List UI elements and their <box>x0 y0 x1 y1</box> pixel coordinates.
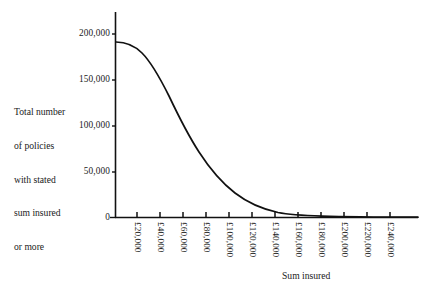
y-axis-ticks <box>110 34 116 218</box>
y-tick-label-100000: 100,000 <box>46 120 110 130</box>
x-tick-label-11: £220,000 <box>363 222 373 257</box>
y-axis-title: Total number of policies with stated sum… <box>14 84 88 274</box>
x-tick-6: £120,000 <box>248 222 259 278</box>
x-tick-10: £200,000 <box>340 222 351 278</box>
y-tick-label-0: 0 <box>46 212 110 222</box>
x-tick-label-3: £60,000 <box>179 222 189 253</box>
y-tick-label-200000: 200,000 <box>46 28 110 38</box>
y-tick-50000: 50,000 <box>46 166 110 177</box>
x-tick-3: £60,000 <box>179 222 190 278</box>
x-tick-label-9: £180,000 <box>317 222 327 257</box>
y-tick-100000: 100,000 <box>46 120 110 131</box>
x-tick-label-1: £20,000 <box>133 222 143 253</box>
y-axis-title-line-2: of policies <box>14 140 88 151</box>
x-tick-label-5: £100,000 <box>225 222 235 257</box>
x-tick-2: £40,000 <box>156 222 167 278</box>
x-tick-12: £240,000 <box>386 222 397 278</box>
x-tick-label-12: £240,000 <box>386 222 396 257</box>
x-tick-label-6: £120,000 <box>248 222 258 257</box>
x-tick-7: £140,000 <box>271 222 282 278</box>
x-tick-label-7: £140,000 <box>271 222 281 257</box>
chart-figure: Total number of policies with stated sum… <box>0 0 429 294</box>
x-tick-4: £80,000 <box>202 222 213 278</box>
x-tick-1: £20,000 <box>133 222 144 278</box>
data-curve-line <box>116 42 418 217</box>
y-axis-title-line-5: or more <box>14 241 88 252</box>
x-tick-5: £100,000 <box>225 222 236 278</box>
y-tick-label-150000: 150,000 <box>46 74 110 84</box>
y-tick-label-50000: 50,000 <box>46 166 110 176</box>
x-tick-label-4: £80,000 <box>202 222 212 253</box>
y-tick-0: 0 <box>46 212 110 223</box>
y-tick-200000: 200,000 <box>46 28 110 39</box>
y-tick-150000: 150,000 <box>46 74 110 85</box>
x-tick-label-10: £200,000 <box>340 222 350 257</box>
x-tick-label-2: £40,000 <box>156 222 166 253</box>
x-tick-11: £220,000 <box>363 222 374 278</box>
x-axis-title: Sum insured <box>282 270 330 281</box>
y-axis-title-line-1: Total number <box>14 106 88 117</box>
x-tick-label-8: £160,000 <box>294 222 304 257</box>
